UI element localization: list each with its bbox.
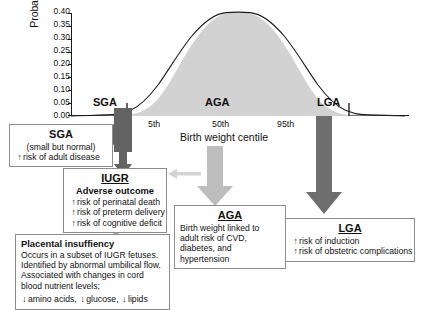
box-aga[interactable]: AGA Birth weight linked to adult risk of… [174, 205, 286, 269]
box-placental-body: Occurs in a subset of IUGR fetuses. Iden… [21, 250, 164, 291]
box-iugr-subtitle: Adverse outcome [69, 186, 161, 197]
region-aga-fill [127, 13, 349, 117]
list-item-text: risk of preterm delivery [77, 207, 165, 217]
down-arrow-icon: ↓ [21, 294, 28, 305]
box-sga-subtitle: (small but normal) [15, 142, 107, 152]
x-tick-95th: 95th [277, 119, 294, 129]
list-item: ↑risk of induction [291, 236, 409, 246]
zone-label-lga: LGA [317, 96, 340, 108]
down-arrow-icon: ↓ [121, 294, 128, 305]
up-arrow-icon: ↑ [16, 152, 23, 162]
up-arrow-icon: ↑ [292, 246, 299, 256]
list-item-text: risk of adult disease [23, 152, 100, 162]
up-arrow-icon: ↑ [70, 207, 77, 217]
list-item-text: risk of induction [299, 236, 359, 246]
box-placental-nutrients: ↓amino acids, ↓glucose, ↓lipids [21, 294, 164, 305]
nutrient-lipids: lipids [128, 294, 148, 304]
x-tick-5th: 5th [148, 119, 160, 129]
box-sga[interactable]: SGA (small but normal) ↑risk of adult di… [9, 124, 113, 167]
nutrient-glucose: glucose, [86, 294, 118, 304]
aga-down-arrow [196, 146, 234, 208]
box-aga-body: Birth weight linked to adult risk of CVD… [180, 223, 280, 264]
list-item: ↑risk of cognitive deficit [69, 218, 161, 228]
list-item-text: risk of obstetric complications [299, 246, 412, 256]
zone-label-aga: AGA [205, 96, 229, 108]
box-sga-title: SGA [15, 128, 107, 141]
up-arrow-icon: ↑ [70, 218, 77, 228]
up-arrow-icon: ↑ [292, 236, 299, 246]
list-item-text: risk of cognitive deficit [77, 218, 162, 228]
y-axis-label: Probability density [28, 0, 42, 36]
box-lga-title: LGA [291, 222, 409, 235]
box-iugr[interactable]: IUGR Adverse outcome ↑risk of perinatal … [63, 168, 167, 233]
list-item-text: risk of perinatal death [77, 197, 160, 207]
list-item: ↑risk of obstetric complications [291, 246, 409, 256]
box-iugr-title: IUGR [69, 172, 161, 185]
lga-down-arrow [305, 116, 343, 216]
aga-to-iugr-left-arrow [167, 168, 201, 180]
list-item: ↑risk of perinatal death [69, 197, 161, 207]
list-item: ↑risk of preterm delivery [69, 207, 161, 217]
box-iugr-list: ↑risk of perinatal death ↑risk of preter… [69, 197, 161, 228]
box-sga-list: ↑risk of adult disease [15, 152, 107, 162]
x-axis-label: Birth weight centile [180, 131, 268, 143]
x-tick-50th: 50th [212, 119, 229, 129]
box-lga-list: ↑risk of induction ↑risk of obstetric co… [291, 236, 409, 257]
box-placental-insufficiency[interactable]: Placental insuffiency Occurs in a subset… [15, 234, 170, 310]
nutrient-amino-acids: amino acids, [28, 294, 77, 304]
box-aga-title: AGA [180, 209, 280, 222]
list-item: ↑risk of adult disease [15, 152, 107, 162]
box-placental-title: Placental insuffiency [21, 238, 164, 250]
up-arrow-icon: ↑ [70, 197, 77, 207]
box-lga[interactable]: LGA ↑risk of induction ↑risk of obstetri… [285, 218, 415, 262]
zone-label-sga: SGA [93, 96, 117, 108]
